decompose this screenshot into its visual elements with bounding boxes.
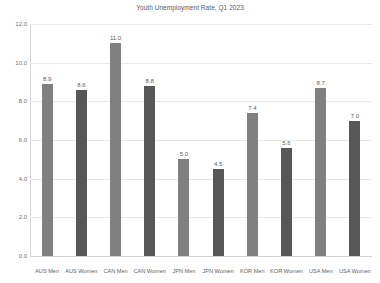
bar[interactable]: 5.6 [281,148,292,256]
bar-chart: Youth Unemployment Rate, Q1 2023 12.010.… [0,0,380,283]
bar-value-label: 8.6 [77,82,85,88]
bar-slot: 5.6 [269,24,303,256]
bar[interactable]: 8.8 [144,86,155,256]
x-axis-category-label: CAN Women [133,268,166,275]
x-label-slot: CAN Men [98,259,132,277]
x-axis-category-labels: AUS MenAUS WomenCAN MenCAN WomenJPN MenJ… [30,259,372,277]
bar[interactable]: 8.9 [42,84,53,256]
x-axis-category-label: USA Men [309,268,333,275]
plot-area: 8.98.611.08.85.04.57.45.68.77.0 [30,24,372,256]
x-label-slot: AUS Women [64,259,98,277]
bar-slot: 8.9 [30,24,64,256]
x-label-slot: USA Men [304,259,338,277]
x-axis-category-label: JPN Men [172,268,195,275]
bar-value-label: 5.6 [282,140,290,146]
x-label-slot: KOR Women [269,259,303,277]
y-axis-tick-label: 10.0 [0,60,27,66]
bar[interactable]: 5.0 [178,159,189,256]
bar-slot: 11.0 [98,24,132,256]
bar[interactable]: 8.6 [76,90,87,256]
x-axis-category-label: AUS Men [35,268,59,275]
bar-slot: 4.5 [201,24,235,256]
y-axis-tick-labels: 12.010.08.06.04.02.00.0 [0,24,27,256]
bar[interactable]: 8.7 [315,88,326,256]
x-label-slot: JPN Men [167,259,201,277]
x-label-slot: CAN Women [133,259,167,277]
bar-slot: 5.0 [167,24,201,256]
gridline [30,256,372,257]
y-axis-tick-label: 6.0 [0,137,27,143]
x-label-slot: JPN Women [201,259,235,277]
y-axis-tick-label: 0.0 [0,253,27,259]
bar-value-label: 8.9 [43,76,51,82]
y-axis-tick-label: 2.0 [0,214,27,220]
bar[interactable]: 7.4 [247,113,258,256]
bar-value-label: 5.0 [180,151,188,157]
x-axis-category-label: KOR Men [240,268,265,275]
x-axis-category-label: AUS Women [65,268,97,275]
bar-slot: 8.6 [64,24,98,256]
x-axis-category-label: KOR Women [270,268,303,275]
bar-value-label: 7.4 [248,105,256,111]
bar-value-label: 7.0 [351,113,359,119]
bar[interactable]: 11.0 [110,43,121,256]
x-axis-category-label: JPN Women [202,268,233,275]
y-axis-tick-label: 8.0 [0,98,27,104]
bar-slot: 8.8 [133,24,167,256]
y-axis-tick-label: 4.0 [0,176,27,182]
bar[interactable]: 7.0 [349,121,360,256]
x-label-slot: KOR Men [235,259,269,277]
bar-series: 8.98.611.08.85.04.57.45.68.77.0 [30,24,372,256]
x-label-slot: AUS Men [30,259,64,277]
bar[interactable]: 4.5 [213,169,224,256]
bar-value-label: 4.5 [214,161,222,167]
bar-slot: 8.7 [304,24,338,256]
x-axis-category-label: CAN Men [103,268,127,275]
y-axis-tick-label: 12.0 [0,21,27,27]
bar-slot: 7.0 [338,24,372,256]
chart-title: Youth Unemployment Rate, Q1 2023 [0,3,380,12]
bar-value-label: 8.8 [146,78,154,84]
bar-value-label: 8.7 [317,80,325,86]
x-label-slot: USA Women [338,259,372,277]
bar-slot: 7.4 [235,24,269,256]
x-axis-category-label: USA Women [339,268,371,275]
bar-value-label: 11.0 [110,35,121,41]
